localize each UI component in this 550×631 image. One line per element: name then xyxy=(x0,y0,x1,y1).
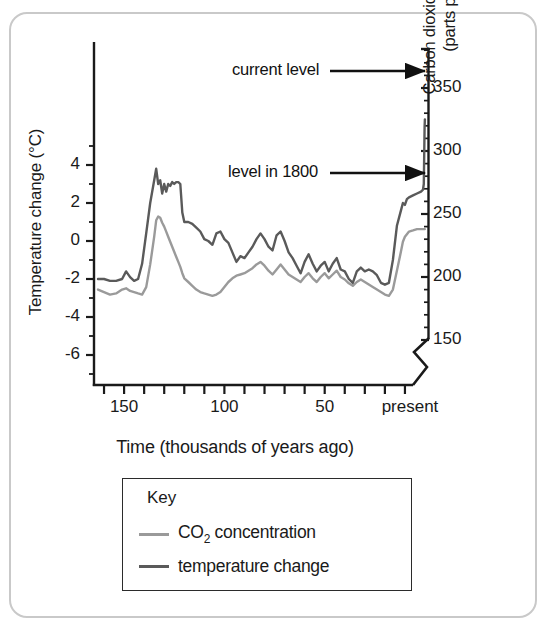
key-title: Key xyxy=(147,488,176,508)
axis-break-zigzag xyxy=(413,338,429,385)
x-axis-title: Time (thousands of years ago) xyxy=(0,437,470,458)
x-tick-label-0: 150 xyxy=(89,397,159,417)
left-tick-label-5: -6 xyxy=(40,344,80,364)
key-item-co2: CO2 concentration xyxy=(139,521,316,547)
key-item-temperature: temperature change xyxy=(139,553,329,579)
right-tick-label-3: 200 xyxy=(433,266,483,286)
key-label-temperature: temperature change xyxy=(178,556,329,577)
right-tick-label-2: 250 xyxy=(433,203,483,223)
left-axis xyxy=(86,42,94,386)
key-label-co2: CO2 concentration xyxy=(178,522,316,546)
chart-plot-area: Temperature change (°C) Carbon dioxide c… xyxy=(0,0,550,470)
left-tick-label-0: 4 xyxy=(40,154,80,174)
x-axis-ticks xyxy=(104,385,405,394)
x-tick-label-3: present xyxy=(375,397,445,417)
left-tick-label-1: 2 xyxy=(40,192,80,212)
annotation-arrows xyxy=(330,71,425,173)
left-axis-title: Temperature change (°C) xyxy=(26,112,46,332)
key-swatch-temperature xyxy=(139,565,169,568)
temperature-change-line xyxy=(98,119,425,284)
left-tick-label-4: -4 xyxy=(40,306,80,326)
key-swatch-co2 xyxy=(139,533,169,536)
x-tick-label-1: 100 xyxy=(189,397,259,417)
right-tick-label-1: 300 xyxy=(433,140,483,160)
bottom-axis xyxy=(93,385,413,394)
x-tick-label-2: 50 xyxy=(290,397,360,417)
annotation-level-1800: level in 1800 xyxy=(228,162,318,181)
annotation-current-level: current level xyxy=(232,60,319,79)
left-tick-label-2: 0 xyxy=(40,230,80,250)
right-tick-label-0: 350 xyxy=(433,77,483,97)
chart-key: Key CO2 concentration temperature change xyxy=(122,478,412,591)
right-tick-label-4: 150 xyxy=(433,329,483,349)
left-tick-label-3: -2 xyxy=(40,268,80,288)
